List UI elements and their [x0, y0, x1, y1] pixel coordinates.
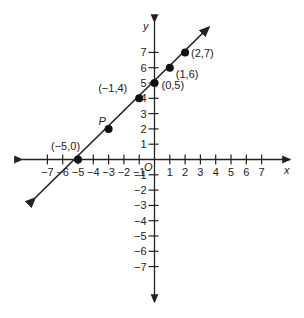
y-tick-label: 7	[140, 46, 146, 58]
point-marker	[166, 64, 174, 72]
y-tick-label: 5	[140, 77, 146, 89]
x-tick-label: 7	[259, 166, 265, 178]
point-label: (1,6)	[176, 68, 199, 80]
x-tick-label: −4	[87, 166, 100, 178]
y-tick-label: 3	[140, 108, 146, 120]
x-tick-label: −2	[118, 166, 131, 178]
point-marker	[151, 79, 159, 87]
point-label: (2,7)	[191, 47, 214, 59]
point-label: (−1,4)	[98, 82, 127, 94]
point-marker	[135, 94, 143, 102]
x-tick-label: −7	[41, 166, 54, 178]
y-tick-label: 2	[140, 123, 146, 135]
coordinate-plane: −7−6−5−4−3−2−11234567 7654321−1−2−3−4−5−…	[0, 0, 304, 318]
x-tick-label: −5	[72, 166, 85, 178]
point-label: (0,5)	[162, 79, 185, 91]
x-tick-label: 2	[182, 166, 188, 178]
y-tick-label: −5	[134, 230, 147, 242]
points: (−5,0)P(−1,4)(0,5)(1,6)(2,7)	[51, 47, 214, 163]
y-tick-label: −4	[134, 215, 147, 227]
point-label: (−5,0)	[51, 140, 80, 152]
x-tick-label: 3	[197, 166, 203, 178]
y-tick-label: 6	[140, 62, 146, 74]
x-tick-label: 5	[228, 166, 234, 178]
point-label: P	[99, 115, 107, 127]
y-tick-label: −6	[134, 245, 147, 257]
x-tick-label: 1	[167, 166, 173, 178]
x-tick-label: 4	[213, 166, 219, 178]
y-tick-label: −7	[134, 261, 147, 273]
x-tick-label: −3	[102, 166, 115, 178]
point-marker	[181, 48, 189, 56]
point-marker	[74, 156, 82, 164]
x-axis-label: x	[283, 164, 290, 176]
y-tick-label: −2	[134, 184, 147, 196]
y-axis-label: y	[142, 20, 150, 32]
x-tick-label: 6	[243, 166, 249, 178]
y-tick-label: 1	[140, 138, 146, 150]
y-tick-label: −3	[134, 199, 147, 211]
origin-label: O	[144, 161, 153, 173]
